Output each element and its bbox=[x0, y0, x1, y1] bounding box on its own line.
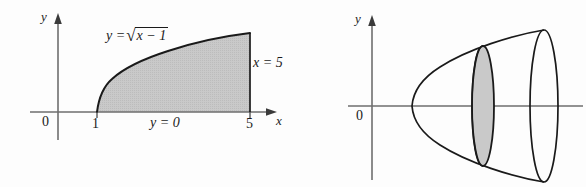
region-plot-panel: y x 0 1 5 y =√x − 1 x = 5 y = 0 bbox=[0, 0, 293, 187]
tick-label-x-5: 5 bbox=[246, 117, 253, 131]
curve-equation-label: y =√x − 1 bbox=[106, 26, 168, 43]
curve-equation-lhs: y = bbox=[106, 28, 125, 43]
boundary-label-x-equals-5: x = 5 bbox=[253, 56, 283, 70]
figure-pair: y x 0 1 5 y =√x − 1 x = 5 y = 0 bbox=[0, 0, 586, 187]
radicand: x − 1 bbox=[135, 27, 169, 43]
tick-label-x-1: 1 bbox=[92, 117, 99, 131]
solid-of-revolution-panel: y 0 bbox=[293, 0, 586, 187]
y-axis-arrowhead bbox=[54, 13, 62, 24]
left-x-axis-label: x bbox=[276, 114, 282, 127]
right-y-axis-arrowhead bbox=[368, 15, 376, 26]
solid-of-revolution-svg bbox=[293, 0, 586, 187]
left-origin-label: 0 bbox=[42, 115, 49, 129]
right-origin-label: 0 bbox=[356, 109, 363, 123]
radical-group: √x − 1 bbox=[125, 26, 168, 43]
boundary-label-y-equals-0: y = 0 bbox=[150, 116, 180, 130]
radical-sign: √ bbox=[126, 27, 135, 44]
right-y-axis-label: y bbox=[355, 12, 361, 25]
left-y-axis-label: y bbox=[41, 10, 47, 23]
